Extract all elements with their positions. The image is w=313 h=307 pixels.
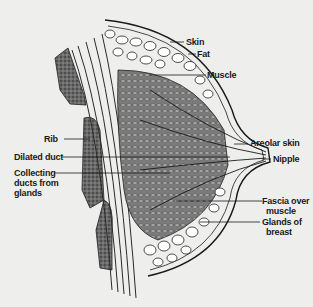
label-areolar-skin: Areolar skin (250, 138, 300, 148)
label-fascia-line1: Fascia over (262, 196, 309, 206)
label-skin: Skin (186, 37, 204, 47)
label-collecting-ducts-line3: glands (14, 188, 42, 198)
label-glands-line2: breast (266, 227, 292, 237)
label-nipple: Nipple (273, 154, 299, 164)
label-collecting-ducts-line1: Collecting (14, 168, 56, 178)
label-dilated-duct: Dilated duct (14, 152, 63, 162)
label-glands-line1: Glands of (262, 217, 302, 227)
label-muscle: Muscle (207, 70, 236, 80)
label-collecting-ducts-line2: ducts from (14, 178, 59, 188)
label-fascia-line2: muscle (266, 206, 296, 216)
label-fat: Fat (197, 49, 210, 59)
label-rib: Rib (44, 134, 58, 144)
